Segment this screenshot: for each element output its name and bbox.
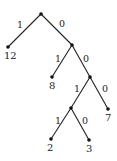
node-leaf-12 [6,45,10,49]
edge-label-n3-right: 0 [82,115,88,126]
huffman-tree-diagram: 1 0 1 0 1 0 1 0 12 8 7 2 3 [0,0,117,161]
edge-label-n1-left: 1 [55,53,61,64]
leaf-label-2: 2 [47,142,53,153]
node-leaf-2 [49,137,53,141]
node-n2 [88,75,92,79]
leaf-label-8: 8 [49,80,55,91]
edge-label-n2-left: 1 [74,83,80,94]
node-n3 [69,106,73,110]
edge-root-to-12 [8,14,41,47]
edge-label-n2-right: 0 [102,83,108,94]
edge-label-root-right: 0 [59,18,65,29]
edge-root-to-n1 [41,14,72,45]
leaf-label-7: 7 [105,112,111,123]
node-leaf-8 [50,75,54,79]
edge-label-root-left: 1 [17,19,23,30]
edge-label-n3-left: 1 [55,115,61,126]
node-leaf-7 [106,107,110,111]
leaf-label-12: 12 [4,50,17,61]
leaf-label-3: 3 [86,143,92,154]
node-root [39,12,43,16]
node-leaf-3 [87,138,91,142]
node-n1 [70,43,74,47]
edge-label-n1-right: 0 [83,53,89,64]
